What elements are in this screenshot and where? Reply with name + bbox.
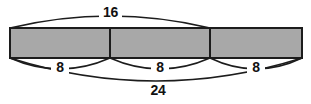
segment-rect-2 <box>110 28 210 58</box>
bottom-dimension-label-8-right: 8 <box>252 59 260 75</box>
top-dimension-label-16: 16 <box>103 4 119 20</box>
segment-rect-3 <box>210 28 302 58</box>
diagram-canvas: 16 8 8 8 24 <box>0 0 311 104</box>
dimension-diagram: 16 8 8 8 24 <box>0 0 311 104</box>
bottom-dimension-label-24-total: 24 <box>150 82 166 98</box>
bottom-dimension-label-8-middle: 8 <box>156 59 164 75</box>
segment-rect-1 <box>10 28 110 58</box>
bottom-dimension-label-8-left: 8 <box>56 59 64 75</box>
